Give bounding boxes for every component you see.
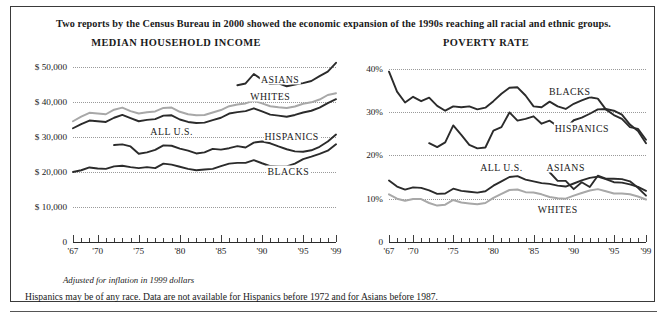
x-axis-tick-label: '70 <box>92 246 103 256</box>
footnote-inflation: Adjusted for inflation in 1999 dollars <box>63 275 194 285</box>
x-axis-tick-label: '67 <box>68 246 79 256</box>
series-line <box>73 93 336 121</box>
x-axis-tick-label: '67 <box>384 246 395 256</box>
y-axis-tick-label: $ 50,000 <box>35 62 67 72</box>
series-label-asians: ASIANS <box>545 161 585 172</box>
chart-poverty: 40%30%20%10%0'67'70'75'80'85'90'95'99BLA… <box>389 60 646 242</box>
x-axis-tick-label: '75 <box>448 246 459 256</box>
x-axis-tick <box>336 235 337 242</box>
x-axis-tick <box>646 235 647 242</box>
series-label-all-u-s: ALL U.S. <box>149 126 194 137</box>
y-axis-tick-label: 40% <box>366 64 383 74</box>
series-label-asians: ASIANS <box>260 73 300 84</box>
series-label-whites: WHITES <box>537 204 579 215</box>
series-layer <box>73 60 336 242</box>
series-label-blacks: BLACKS <box>548 86 592 97</box>
x-axis-tick-label: '95 <box>298 246 309 256</box>
series-label-hispanics: HISPANICS <box>554 123 610 134</box>
chart-title-poverty: POVERTY RATE <box>341 37 631 48</box>
headline: Two reports by the Census Bureau in 2000… <box>11 18 656 30</box>
x-axis-line <box>389 242 646 243</box>
series-label-whites: WHITES <box>249 90 291 101</box>
x-axis-tick-label: '70 <box>408 246 419 256</box>
footnote-hispanics: Hispanics may be of any race. Data are n… <box>25 291 438 302</box>
y-axis-tick-label: 20% <box>366 150 383 160</box>
x-axis-line <box>73 242 336 243</box>
y-axis-tick-label: $ 20,000 <box>35 167 67 177</box>
y-axis-tick-label: 0 <box>378 237 383 247</box>
series-label-blacks: BLACKS <box>267 166 311 177</box>
x-axis-tick-label: '90 <box>568 246 579 256</box>
figure-panel: Two reports by the Census Bureau in 2000… <box>10 6 655 302</box>
x-axis-tick-label: '95 <box>608 246 619 256</box>
x-axis-tick-label: '99 <box>331 246 342 256</box>
y-axis-tick-label: $ 40,000 <box>35 97 67 107</box>
y-axis-tick-label: 0 <box>62 237 67 247</box>
y-axis-tick-label: 30% <box>366 107 383 117</box>
series-label-hispanics: HISPANICS <box>263 131 319 142</box>
x-axis-tick-label: '80 <box>488 246 499 256</box>
series-line <box>73 99 336 128</box>
x-axis-tick-label: '85 <box>216 246 227 256</box>
x-axis-tick-label: '99 <box>641 246 652 256</box>
x-axis-tick-label: '85 <box>528 246 539 256</box>
chart-income: $ 50,000$ 40,000$ 30,000$ 20,000$ 10,000… <box>73 60 336 242</box>
series-layer <box>389 60 646 242</box>
series-line <box>389 189 646 205</box>
chart-title-income: MEDIAN HOUSEHOLD INCOME <box>31 37 321 48</box>
y-axis-tick-label: 10% <box>366 194 383 204</box>
bottom-rule <box>10 311 657 312</box>
x-axis-tick-label: '80 <box>174 246 185 256</box>
y-axis-tick-label: $ 10,000 <box>35 202 67 212</box>
y-axis-tick-label: $ 30,000 <box>35 132 67 142</box>
series-label-all-u-s: ALL U.S. <box>479 162 524 173</box>
x-axis-tick-label: '75 <box>133 246 144 256</box>
x-axis-tick-label: '90 <box>257 246 268 256</box>
